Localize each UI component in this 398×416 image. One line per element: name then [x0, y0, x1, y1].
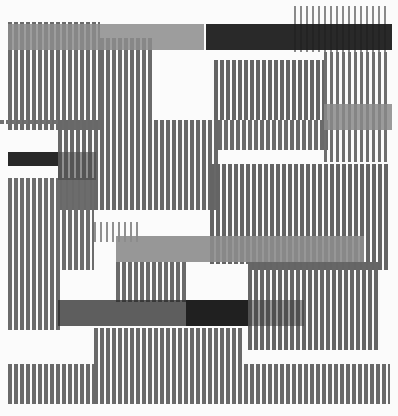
left-dark-block — [58, 152, 96, 180]
horizontal-bar-layer — [0, 0, 398, 416]
left-black-block — [8, 152, 58, 166]
lower-black-center — [186, 300, 248, 326]
mid-white-gap — [186, 264, 248, 300]
mid-gray-bar — [116, 236, 364, 262]
lower-gray-right — [248, 300, 304, 326]
top-black-bar — [206, 24, 392, 50]
lower-black-bar — [58, 300, 186, 326]
op-art-canvas — [0, 0, 398, 416]
right-gray-block — [324, 104, 392, 130]
top-gray-bar — [8, 24, 204, 50]
